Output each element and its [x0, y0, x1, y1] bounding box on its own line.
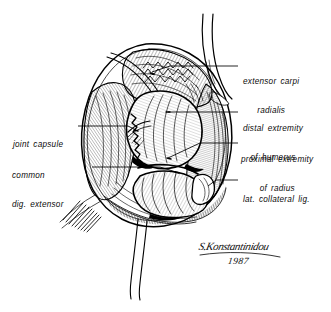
label-line-1: extensor carpi	[243, 77, 299, 87]
label-line-1: proximal extremity	[241, 155, 313, 165]
anatomical-figure: extensor carpi radialis distal extremity…	[0, 0, 331, 312]
artist-signature: S.Konstantinidou	[198, 240, 270, 252]
label-line-1: joint capsule	[13, 140, 63, 150]
label-common-dig-extensor: common dig. extensor	[12, 152, 64, 229]
artist-signature-year: 1987	[227, 256, 249, 266]
label-line-2: dig. extensor	[12, 200, 64, 210]
label-line-1: lat. collateral lig.	[243, 195, 310, 205]
label-line-1: distal extremity	[243, 124, 303, 134]
label-lat-collateral-lig: lat. collateral lig.	[243, 176, 310, 224]
label-line-1: common	[12, 171, 64, 181]
